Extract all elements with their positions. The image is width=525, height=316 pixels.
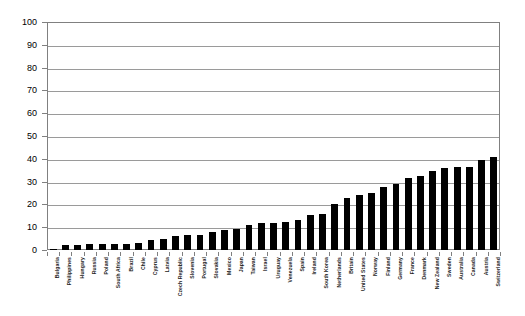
x-tick-label: Venezuela bbox=[288, 257, 293, 283]
x-tick-label: Austria bbox=[484, 257, 489, 275]
x-tick-mark bbox=[390, 252, 391, 256]
x-tick-mark bbox=[500, 252, 501, 256]
bar bbox=[282, 222, 289, 250]
x-tick-label: Sweden bbox=[447, 257, 452, 277]
x-tick-label: Chile bbox=[141, 257, 146, 270]
y-tick-label: 90 bbox=[27, 40, 37, 49]
x-tick-mark bbox=[304, 252, 305, 256]
x-tick-label: Brazil bbox=[129, 257, 134, 271]
y-axis: 0102030405060708090100 bbox=[0, 0, 47, 252]
x-tick-mark bbox=[133, 252, 134, 256]
x-tick-label: Denmark bbox=[422, 257, 427, 280]
x-axis: BulgariaPhilippinesHungaryRussiaPolandSo… bbox=[47, 252, 500, 316]
y-tick-label: 50 bbox=[27, 132, 37, 141]
bar bbox=[344, 198, 351, 250]
x-tick-label: New Zealand bbox=[435, 257, 440, 289]
bar bbox=[295, 220, 302, 250]
x-tick-label: Portugal bbox=[202, 257, 207, 278]
x-tick-label: Bulgaria bbox=[55, 257, 60, 278]
x-tick-mark bbox=[243, 252, 244, 256]
bar bbox=[319, 214, 326, 250]
bar bbox=[368, 193, 375, 250]
bar bbox=[135, 243, 142, 250]
y-tick-label: 10 bbox=[27, 223, 37, 232]
bar bbox=[148, 240, 155, 250]
bar bbox=[111, 244, 118, 250]
x-tick-mark bbox=[451, 252, 452, 256]
x-tick-mark bbox=[255, 252, 256, 256]
x-tick-mark bbox=[280, 252, 281, 256]
x-tick-mark bbox=[218, 252, 219, 256]
x-tick-mark bbox=[120, 252, 121, 256]
x-tick-label: Philippines bbox=[67, 257, 72, 285]
bar bbox=[99, 244, 106, 250]
x-tick-label: Uruguay bbox=[276, 257, 281, 278]
y-tick-label: 20 bbox=[27, 200, 37, 209]
x-tick-mark bbox=[414, 252, 415, 256]
x-tick-label: Netherlands bbox=[337, 257, 342, 288]
bar bbox=[417, 176, 424, 250]
bar bbox=[258, 223, 265, 250]
x-tick-mark bbox=[96, 252, 97, 256]
x-tick-label: Canada bbox=[471, 257, 476, 276]
x-tick-mark bbox=[145, 252, 146, 256]
x-tick-mark bbox=[169, 252, 170, 256]
bar bbox=[490, 157, 497, 250]
bar bbox=[74, 245, 81, 250]
x-tick-mark bbox=[231, 252, 232, 256]
bar bbox=[62, 245, 69, 250]
x-tick-label: Switzerland bbox=[496, 257, 501, 286]
x-tick-label: Cyprus bbox=[153, 257, 158, 275]
bar bbox=[331, 204, 338, 251]
bar bbox=[356, 195, 363, 250]
x-tick-label: Ireland bbox=[312, 257, 317, 274]
x-tick-mark bbox=[427, 252, 428, 256]
x-tick-label: Slovenia bbox=[190, 257, 195, 279]
bar bbox=[441, 168, 448, 250]
x-tick-label: Australia bbox=[459, 257, 464, 280]
y-tick-label: 0 bbox=[32, 246, 37, 255]
x-tick-mark bbox=[47, 252, 48, 256]
bar bbox=[197, 235, 204, 251]
x-tick-label: South Korea bbox=[324, 257, 329, 288]
bar bbox=[209, 232, 216, 250]
bar bbox=[184, 235, 191, 250]
x-tick-label: Israel bbox=[263, 257, 268, 271]
bar bbox=[123, 244, 130, 250]
x-tick-mark bbox=[108, 252, 109, 256]
x-tick-mark bbox=[157, 252, 158, 256]
y-tick-mark bbox=[42, 250, 47, 251]
x-tick-label: France bbox=[410, 257, 415, 274]
bar bbox=[221, 230, 228, 250]
x-tick-mark bbox=[353, 252, 354, 256]
y-tick-label: 70 bbox=[27, 86, 37, 95]
x-tick-mark bbox=[316, 252, 317, 256]
x-tick-mark bbox=[341, 252, 342, 256]
bar bbox=[454, 167, 461, 250]
y-tick-label: 60 bbox=[27, 109, 37, 118]
y-tick-label: 80 bbox=[27, 63, 37, 72]
x-tick-mark bbox=[267, 252, 268, 256]
bar bbox=[466, 167, 473, 250]
bar bbox=[307, 215, 314, 250]
x-tick-mark bbox=[84, 252, 85, 256]
x-tick-label: Poland bbox=[104, 257, 109, 275]
bar bbox=[86, 244, 93, 250]
x-tick-mark bbox=[378, 252, 379, 256]
y-tick-label: 100 bbox=[22, 18, 37, 27]
x-tick-label: Britain bbox=[349, 257, 354, 274]
x-tick-mark bbox=[439, 252, 440, 256]
x-tick-mark bbox=[463, 252, 464, 256]
bar bbox=[270, 223, 277, 250]
x-tick-label: Russia bbox=[92, 257, 97, 274]
x-tick-mark bbox=[402, 252, 403, 256]
bar bbox=[246, 225, 253, 250]
x-tick-mark bbox=[365, 252, 366, 256]
y-tick-label: 30 bbox=[27, 177, 37, 186]
bar-chart: 0102030405060708090100 BulgariaPhilippin… bbox=[0, 0, 525, 316]
x-tick-label: Slovakia bbox=[214, 257, 219, 279]
bar bbox=[429, 171, 436, 250]
x-tick-label: Taiwan bbox=[251, 257, 256, 275]
x-tick-label: Spain bbox=[300, 257, 305, 271]
x-tick-mark bbox=[329, 252, 330, 256]
